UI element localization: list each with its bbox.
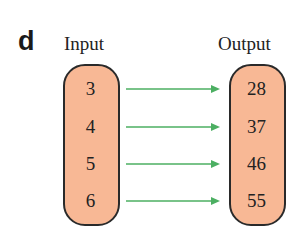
arrow-icon (126, 160, 220, 168)
mapping-arrows (0, 0, 304, 249)
arrow-icon (126, 123, 220, 131)
arrow-icon (126, 197, 220, 205)
arrow-icon (126, 85, 220, 93)
